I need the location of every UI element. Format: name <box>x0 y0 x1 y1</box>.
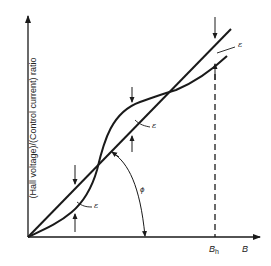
phi-arc-start-arrow <box>112 152 119 157</box>
epsilon-label-upper-right: ε <box>238 40 242 49</box>
bh-label-sub: h <box>215 248 219 255</box>
diagram-canvas <box>0 0 271 266</box>
bh-label: Bh <box>209 244 219 254</box>
actual-response-curve <box>28 56 227 237</box>
hall-ratio-diagram: (Hall voltage)/(Control current) ratio ε… <box>0 0 271 266</box>
phi-label: ϕ <box>140 185 144 194</box>
epsilon-label-lower-left: ε <box>94 201 98 210</box>
phi-angle-arc <box>113 153 145 236</box>
ideal-linear-line <box>28 29 231 237</box>
y-axis-label: (Hall voltage)/(Control current) ratio <box>28 38 40 218</box>
x-axis-label: B <box>242 244 248 254</box>
eps-leader-right <box>217 47 235 53</box>
epsilon-label-middle: ε <box>152 121 156 130</box>
